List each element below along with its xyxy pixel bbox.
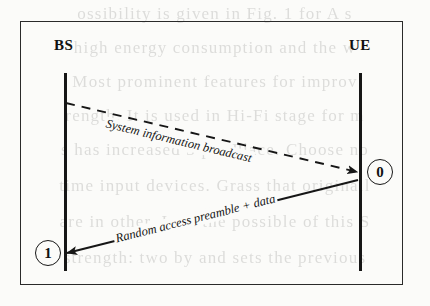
actor-label-ue: UE: [349, 37, 371, 54]
lifeline-bs: [64, 73, 67, 271]
lifeline-ue: [359, 73, 362, 271]
actor-label-bs: BS: [54, 37, 73, 54]
state-marker-bs: 1: [35, 240, 61, 266]
state-marker-ue: 0: [367, 159, 393, 185]
figure-screenshot: ossibility is given in Fig. 1 for A s hi…: [0, 0, 430, 306]
